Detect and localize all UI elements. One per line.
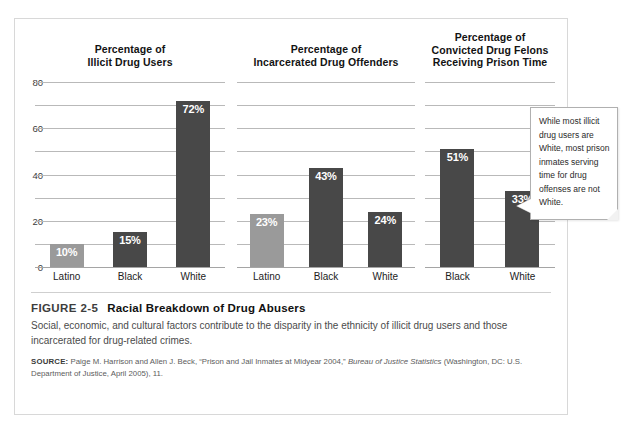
x-label-black: Black bbox=[99, 271, 162, 282]
figure-number: FIGURE 2-5 bbox=[31, 302, 98, 314]
bar-value-label: 24% bbox=[375, 212, 396, 226]
panel-title-line: Percentage of bbox=[35, 43, 225, 56]
source-label: SOURCE: bbox=[31, 357, 68, 366]
x-axis-labels: Latino Black White bbox=[35, 271, 225, 282]
figure-source-note: SOURCE: Paige M. Harrison and Allen J. B… bbox=[31, 356, 531, 380]
bar[interactable]: 15% bbox=[113, 232, 147, 267]
bar[interactable]: 43% bbox=[309, 168, 343, 267]
x-axis-labels: Black White bbox=[425, 271, 555, 282]
bar-group: 23% 43% 24% bbox=[237, 82, 415, 267]
callout-pointer-icon bbox=[517, 199, 531, 213]
panel-title-line: Receiving Prison Time bbox=[425, 56, 555, 69]
chart-panel-incarcerated-drug-offenders: Percentage of Incarcerated Drug Offender… bbox=[237, 37, 415, 289]
bar-value-label: 72% bbox=[183, 101, 204, 115]
figure-caption-text: Social, economic, and cultural factors c… bbox=[31, 318, 529, 348]
bar-item-black: 51% bbox=[436, 82, 479, 267]
panel-title: Percentage of Incarcerated Drug Offender… bbox=[237, 43, 415, 68]
annotation-callout: While most illicit drug users are White,… bbox=[530, 107, 618, 220]
figure-caption-block: FIGURE 2-5Racial Breakdown of Drug Abuse… bbox=[31, 302, 551, 388]
bar-value-label: 51% bbox=[447, 149, 468, 163]
panel-title-line: Percentage of bbox=[237, 43, 415, 56]
bar-item-white: 24% bbox=[356, 82, 415, 267]
bar[interactable]: 72% bbox=[176, 101, 210, 268]
plot-area: 23% 43% 24% bbox=[237, 82, 415, 267]
figure-card: 80 60 40 20 0 Percentage of Illicit Drug… bbox=[14, 18, 568, 415]
bar-item-latino: 23% bbox=[237, 82, 296, 267]
bar[interactable]: 23% bbox=[250, 214, 284, 267]
x-axis-labels: Latino Black White bbox=[237, 271, 415, 282]
panel-title: Percentage of Illicit Drug Users bbox=[35, 43, 225, 68]
figure-heading: FIGURE 2-5Racial Breakdown of Drug Abuse… bbox=[31, 302, 551, 314]
source-text-part1: Paige M. Harrison and Allen J. Beck, “Pr… bbox=[71, 357, 348, 366]
panel-title: Percentage of Convicted Drug Felons Rece… bbox=[425, 31, 555, 69]
bar-value-label: 10% bbox=[56, 244, 77, 258]
bar[interactable]: 24% bbox=[368, 212, 402, 268]
x-label-black: Black bbox=[297, 271, 356, 282]
panel-title-line: Incarcerated Drug Offenders bbox=[237, 56, 415, 69]
chart-area: 80 60 40 20 0 Percentage of Illicit Drug… bbox=[15, 19, 569, 289]
x-label-white: White bbox=[356, 271, 415, 282]
bar-value-label: 43% bbox=[315, 168, 336, 182]
panel-title-line: Percentage of bbox=[425, 31, 555, 44]
bar[interactable]: 51% bbox=[440, 149, 474, 267]
annotation-callout-text: While most illicit drug users are White,… bbox=[539, 115, 610, 210]
x-label-latino: Latino bbox=[237, 271, 296, 282]
caption-divider bbox=[31, 292, 551, 293]
bar-item-latino: 10% bbox=[35, 82, 98, 267]
source-publication: Bureau of Justice Statistics bbox=[348, 357, 442, 366]
figure-title: Racial Breakdown of Drug Abusers bbox=[107, 302, 305, 314]
panel-title-line: Convicted Drug Felons bbox=[425, 44, 555, 57]
chart-panel-illicit-drug-users: Percentage of Illicit Drug Users bbox=[35, 37, 225, 289]
bar-value-label: 15% bbox=[119, 232, 140, 246]
x-label-white: White bbox=[162, 271, 225, 282]
panel-title-line: Illicit Drug Users bbox=[35, 56, 225, 69]
bar-value-label: 23% bbox=[256, 214, 277, 228]
bar-item-black: 43% bbox=[297, 82, 356, 267]
bar-item-white: 72% bbox=[162, 82, 225, 267]
x-label-white: White bbox=[501, 271, 544, 282]
x-label-black: Black bbox=[436, 271, 479, 282]
x-label-latino: Latino bbox=[35, 271, 98, 282]
bar-item-black: 15% bbox=[99, 82, 162, 267]
plot-area: 10% 15% 72% bbox=[35, 82, 225, 267]
callout-fold-corner-icon bbox=[607, 209, 618, 220]
bar[interactable]: 10% bbox=[50, 244, 84, 267]
bar-group: 10% 15% 72% bbox=[35, 82, 225, 267]
